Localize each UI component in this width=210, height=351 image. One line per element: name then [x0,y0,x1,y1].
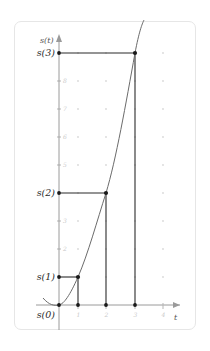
curve-st [43,20,144,305]
y-tick-3: 3 [63,217,67,224]
point-base-t2 [104,303,108,307]
y-axis-arrowhead [56,34,62,42]
y-tick-7: 7 [63,105,67,112]
y-tick-6: 6 [63,133,67,140]
label-s2: s(2) [37,187,56,198]
point-curve-t3 [133,51,137,55]
label-s1: s(1) [37,271,56,282]
point-curve-t1 [76,275,80,279]
y-tick-5: 5 [63,161,67,168]
point-curve-t2 [104,191,108,195]
x-axis-tick-labels: 1 2 3 4 [77,311,166,318]
label-s3: s(3) [37,47,56,58]
x-tick-2: 2 [104,311,109,318]
point-s3-axis [57,51,61,55]
point-base-t3 [133,303,137,307]
x-tick-4: 4 [161,311,166,318]
point-base-t1 [76,303,80,307]
y-axis-tick-labels: 8 7 6 5 3 2 [62,77,67,252]
marked-points [57,51,137,307]
x-tick-1: 1 [77,311,81,318]
chart-plot-area: 8 7 6 5 3 2 1 2 3 4 [0,0,210,351]
label-s0: s(0) [37,309,56,320]
vertical-drop-lines [78,53,135,305]
chart-svg: 8 7 6 5 3 2 1 2 3 4 [0,0,210,351]
y-axis-title: s(t) [40,36,54,45]
x-axis-ticks [78,303,163,309]
x-axis-arrowhead [173,302,180,308]
y-tick-8: 8 [63,77,67,84]
point-s1-axis [57,275,61,279]
y-tick-2: 2 [62,245,67,252]
point-s2-axis [57,191,61,195]
x-tick-3: 3 [134,311,138,318]
point-s0-axis [57,303,61,307]
x-axis-title: t [174,313,178,322]
horizontal-guide-lines [59,53,135,277]
